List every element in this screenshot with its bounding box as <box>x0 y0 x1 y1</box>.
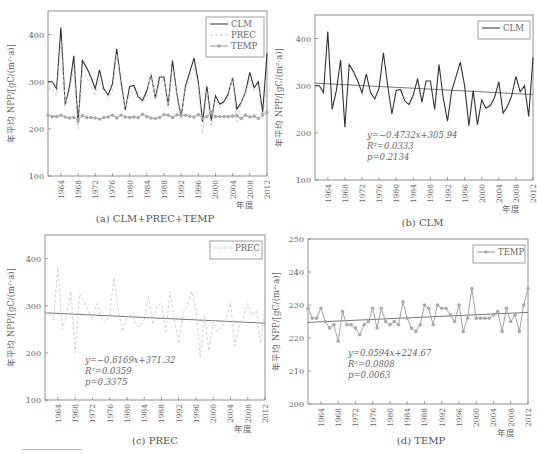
data-point <box>440 307 444 311</box>
y-tick-label: 100 <box>26 396 41 405</box>
data-point <box>68 116 72 120</box>
data-point <box>248 115 252 119</box>
data-point <box>132 115 136 119</box>
data-point <box>392 320 396 324</box>
y-tick-label: 200 <box>296 129 311 138</box>
data-point <box>59 113 63 117</box>
data-point <box>474 316 478 320</box>
x-tick-label: 1976 <box>369 408 378 427</box>
x-tick-label: 1984 <box>143 180 152 199</box>
x-tick-label: 1996 <box>461 184 470 203</box>
chart-b: 1002003004001964196819721976198019841988… <box>268 0 537 215</box>
x-tick-label: 2000 <box>211 180 220 199</box>
data-point <box>81 114 85 118</box>
data-point <box>358 333 362 337</box>
legend-label-clm: CLM <box>503 23 524 33</box>
data-point <box>505 307 509 311</box>
panel-b: 1002003004001964196819721976198019841988… <box>268 0 537 230</box>
data-point <box>128 116 132 120</box>
data-point <box>388 323 392 327</box>
data-point <box>470 287 474 291</box>
x-tick-label: 1968 <box>341 184 350 203</box>
y-tick-label: 400 <box>29 31 44 40</box>
y-tick-label: 210 <box>289 367 304 376</box>
chart-c: 1002003004001964196819721976198019841988… <box>0 228 270 443</box>
data-point <box>119 113 123 117</box>
x-tick-label: 2008 <box>507 408 516 427</box>
data-point <box>89 116 93 120</box>
x-tick-label: 1984 <box>403 408 412 427</box>
y-tick-label: 200 <box>26 349 41 358</box>
data-point <box>453 320 457 324</box>
data-point <box>328 326 332 330</box>
x-tick-label: 1980 <box>126 180 135 199</box>
regression-annotation: R²=0.0808 <box>347 359 395 369</box>
data-point <box>166 113 170 117</box>
legend-marker <box>484 250 488 254</box>
data-point <box>98 117 102 121</box>
x-tick-label: 1992 <box>175 404 184 423</box>
data-point <box>349 323 353 327</box>
figure-footnote-line <box>22 449 82 450</box>
data-point <box>235 114 239 118</box>
x-tick-label: 1988 <box>420 408 429 427</box>
data-point <box>244 113 248 117</box>
data-point <box>175 113 179 117</box>
data-point <box>336 340 340 344</box>
x-tick-label: 1996 <box>192 404 201 423</box>
data-point <box>311 316 315 320</box>
y-tick-label: 300 <box>29 78 44 87</box>
x-tick-label: 2000 <box>472 408 481 427</box>
data-point <box>461 330 465 334</box>
legend-label-prec: PREC <box>231 30 256 40</box>
data-point <box>405 316 409 320</box>
x-tick-label: 1972 <box>91 180 100 199</box>
x-tick-label: 1980 <box>386 408 395 427</box>
data-point <box>436 303 440 307</box>
x-tick-label: 1984 <box>140 404 149 423</box>
data-point <box>50 115 54 119</box>
data-point <box>410 326 414 330</box>
x-tick-label: 1992 <box>444 184 453 203</box>
data-point <box>457 303 461 307</box>
data-point <box>162 113 166 117</box>
data-point <box>509 320 513 324</box>
data-point <box>158 116 162 120</box>
data-point <box>487 316 491 320</box>
legend-label-prec: PREC <box>235 243 260 253</box>
data-point <box>239 117 243 121</box>
x-tick-label: 1972 <box>358 184 367 203</box>
data-point <box>184 113 188 117</box>
data-point <box>513 313 517 317</box>
y-axis-label: 年平均 NPP/[gC/(m²·a)] <box>274 48 284 147</box>
regression-annotation: R²=0.0333 <box>366 141 414 151</box>
data-point <box>418 323 422 327</box>
data-point <box>496 310 500 314</box>
panel-d: 2002102202302402501964196819721976198019… <box>265 228 537 460</box>
x-tick-label: 2000 <box>478 184 487 203</box>
x-tick-label: 2004 <box>229 180 238 199</box>
x-axis-label: 年度 <box>234 424 252 434</box>
data-point <box>257 117 261 121</box>
y-tick-label: 230 <box>289 301 304 310</box>
data-point <box>227 115 231 119</box>
data-point <box>85 116 89 120</box>
data-point <box>483 316 487 320</box>
data-point <box>315 316 319 320</box>
data-point <box>218 115 222 119</box>
panel-c: 1002003004001964196819721976198019841988… <box>0 228 270 460</box>
y-axis-label: 年平均 NPP/[gC/(m²·a)] <box>6 44 16 143</box>
y-tick-label: 200 <box>29 125 44 134</box>
data-point <box>201 117 205 121</box>
y-axis-label: 年平均 NPP/[gC/(m²·a)] <box>271 272 281 371</box>
x-tick-label: 1976 <box>106 404 115 423</box>
legend-label-temp: TEMP <box>498 247 525 257</box>
data-point <box>479 316 483 320</box>
regression-annotation: y=−0.4732x+305.94 <box>366 130 457 140</box>
x-tick-label: 1996 <box>455 408 464 427</box>
y-tick-label: 200 <box>289 400 304 409</box>
data-point <box>93 116 97 120</box>
x-tick-label: 2000 <box>209 404 218 423</box>
data-point <box>332 323 336 327</box>
plot-frame <box>315 15 533 180</box>
